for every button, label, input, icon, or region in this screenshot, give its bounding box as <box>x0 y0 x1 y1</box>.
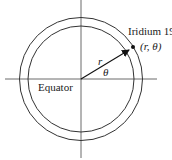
angle-label: θ <box>103 67 108 78</box>
equator-label: Equator <box>38 82 73 93</box>
coordinates-label: (r, θ) <box>140 41 161 52</box>
satellite-point <box>131 45 135 49</box>
diagram-graphics <box>0 0 172 160</box>
orbit-diagram: Iridium 19 (r, θ) r θ Equator <box>0 0 172 160</box>
radius-label: r <box>98 56 102 67</box>
satellite-name-label: Iridium 19 <box>128 26 172 37</box>
